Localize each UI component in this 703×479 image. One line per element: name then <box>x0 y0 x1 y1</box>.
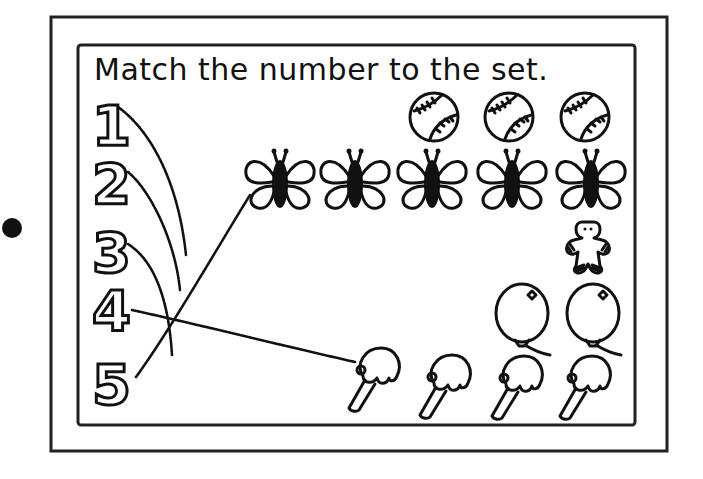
number-1[interactable]: 1 <box>92 93 131 158</box>
gingerbread-man-icon <box>567 222 610 273</box>
number-column: 1 2 3 4 5 <box>92 93 131 417</box>
butterfly-icon <box>246 149 314 209</box>
butterfly-icon <box>557 149 625 209</box>
ice-cream-cone-icon <box>420 355 470 418</box>
set-ice-cream-cones[interactable] <box>349 348 610 419</box>
butterfly-icon <box>321 149 389 209</box>
number-3[interactable]: 3 <box>92 220 131 285</box>
set-butterflies[interactable] <box>246 149 625 209</box>
butterfly-icon <box>398 149 466 209</box>
balloon-icon <box>496 284 550 355</box>
butterfly-icon <box>478 149 546 209</box>
ice-cream-cone-icon <box>492 356 542 419</box>
ice-cream-cone-icon <box>349 348 399 411</box>
hole-punch <box>2 218 22 238</box>
line-from-3 <box>128 244 172 355</box>
set-baseballs[interactable] <box>410 93 609 141</box>
number-5[interactable]: 5 <box>92 352 131 417</box>
worksheet: Match the number to the set. 1 2 3 4 5 <box>0 0 703 479</box>
baseball-icon <box>561 93 609 141</box>
number-2[interactable]: 2 <box>92 151 131 216</box>
baseball-icon <box>485 93 533 141</box>
line-from-5-to-butterfly <box>136 195 250 377</box>
ice-cream-cone-icon <box>560 356 610 419</box>
balloon-icon <box>567 284 621 355</box>
worksheet-title: Match the number to the set. <box>94 52 548 87</box>
line-from-4-to-icecream <box>132 310 355 362</box>
set-balloons[interactable] <box>496 284 621 355</box>
matching-lines <box>118 107 355 377</box>
number-4[interactable]: 4 <box>92 278 131 343</box>
baseball-icon <box>410 93 458 141</box>
set-gingerbread[interactable] <box>567 222 610 273</box>
